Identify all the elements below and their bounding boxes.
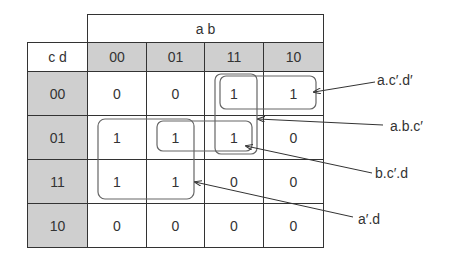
group-overlay [0, 0, 452, 263]
group-outline-acd [220, 76, 316, 109]
arrow-acd [314, 82, 375, 92]
group-outline-abc [215, 74, 257, 154]
group-label-ad: a′.d [358, 211, 380, 227]
group-label-bcd: b.c′.d [375, 165, 408, 181]
arrow-bcd [246, 146, 372, 173]
arrow-abc [258, 119, 383, 125]
group-outline-bcd [157, 121, 252, 151]
arrow-ad [195, 182, 353, 217]
group-label-abc: a.b.c′ [390, 118, 423, 134]
group-outline-ad [98, 119, 194, 199]
group-label-acd: a.c′.d′ [377, 72, 413, 88]
